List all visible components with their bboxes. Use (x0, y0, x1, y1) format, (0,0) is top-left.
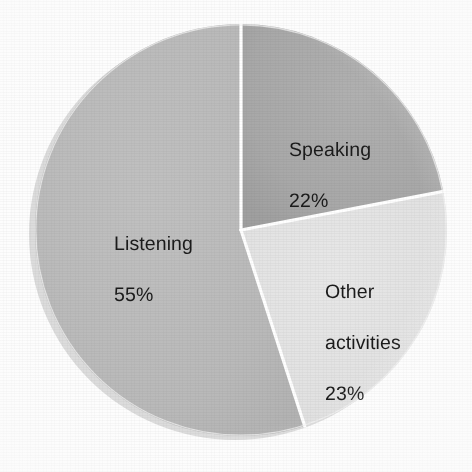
pie-label-speaking-value: 22% (289, 189, 371, 214)
pie-chart-canvas (0, 0, 472, 472)
pie-label-other-activities-value: 23% (325, 382, 401, 407)
pie-label-other-activities-line2: activities (325, 331, 401, 356)
pie-label-speaking-name: Speaking (289, 138, 371, 163)
pie-label-speaking: Speaking 22% (289, 113, 371, 240)
pie-label-other-activities: Other activities 23% (325, 255, 401, 432)
pie-label-other-activities-line1: Other (325, 280, 401, 305)
pie-chart-figure: Speaking 22% Listening 55% Other activit… (0, 0, 472, 472)
pie-label-listening: Listening 55% (114, 207, 193, 334)
pie-label-listening-name: Listening (114, 232, 193, 257)
pie-label-listening-value: 55% (114, 283, 193, 308)
